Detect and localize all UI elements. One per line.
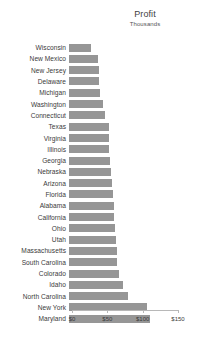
bar[interactable] [69,236,116,244]
category-label: Idaho [0,281,69,288]
category-label: Florida [0,191,69,198]
x-axis-tick-label: $150 [171,315,184,323]
category-label: Massachusetts [0,247,69,254]
category-label: Virginia [0,135,69,142]
bar-track [69,121,218,132]
bar[interactable] [69,213,114,221]
bar-track [69,268,218,279]
bar-track [69,279,218,290]
bar[interactable] [69,202,114,210]
x-axis-line [72,310,178,311]
x-axis-tick-label: $50 [102,315,112,323]
category-label: New Jersey [0,67,69,74]
category-label: Connecticut [0,112,69,119]
category-label: Arizona [0,180,69,187]
table-row: Utah [0,234,218,245]
bar[interactable] [69,66,99,74]
bar-track [69,87,218,98]
chart-title-block: Profit Thousands [72,9,218,28]
bar[interactable] [69,77,99,85]
bar[interactable] [69,89,100,97]
bar-track [69,178,218,189]
table-row: Colorado [0,268,218,279]
bar[interactable] [69,281,123,289]
bar-track [69,42,218,53]
bar[interactable] [69,179,112,187]
table-row: Michigan [0,87,218,98]
category-label: Georgia [0,157,69,164]
table-row: Illinois [0,144,218,155]
table-row: Massachusetts [0,245,218,256]
bar[interactable] [69,292,128,300]
bar[interactable] [69,224,115,232]
bar[interactable] [69,134,109,142]
bar-track [69,291,218,302]
x-axis-tick-mark [143,310,144,313]
x-axis-tick-mark [107,310,108,313]
table-row: California [0,211,218,222]
bar[interactable] [69,190,113,198]
category-label: Ohio [0,225,69,232]
category-label: Wisconsin [0,44,69,51]
bar[interactable] [69,55,98,63]
bar-track [69,76,218,87]
category-label: California [0,214,69,221]
table-row: Virginia [0,132,218,143]
bar-track [69,211,218,222]
x-axis-tick-mark [72,310,73,313]
table-row: Florida [0,189,218,200]
bar-track [69,98,218,109]
x-axis-tick-label: $0 [69,315,76,323]
plot-area: WisconsinNew MexicoNew JerseyDelawareMic… [0,42,218,310]
table-row: Delaware [0,76,218,87]
category-label: New York [0,304,69,311]
table-row: Arizona [0,178,218,189]
bar-track [69,110,218,121]
bar[interactable] [69,44,91,52]
bar[interactable] [69,123,109,131]
table-row: New York [0,302,218,313]
bar[interactable] [69,270,119,278]
bar[interactable] [69,258,117,266]
bar-track [69,166,218,177]
bar-track [69,155,218,166]
table-row: Nebraska [0,166,218,177]
bar-track [69,53,218,64]
bar[interactable] [69,168,111,176]
profit-bar-chart: Profit Thousands WisconsinNew MexicoNew … [0,0,218,339]
category-label: Illinois [0,146,69,153]
table-row: North Carolina [0,291,218,302]
category-label: Nebraska [0,168,69,175]
table-row: Ohio [0,223,218,234]
table-row: South Carolina [0,257,218,268]
table-row: Connecticut [0,110,218,121]
bar[interactable] [69,247,117,255]
chart-subtitle: Thousands [72,20,218,28]
bar[interactable] [69,100,103,108]
table-row: New Mexico [0,53,218,64]
category-label: Texas [0,123,69,130]
bar-track [69,223,218,234]
category-label: Delaware [0,78,69,85]
table-row: New Jersey [0,65,218,76]
bar-track [69,65,218,76]
category-label: Washington [0,101,69,108]
bar-track [69,189,218,200]
category-label: Alabama [0,202,69,209]
bar-track [69,245,218,256]
table-row: Alabama [0,200,218,211]
category-label: North Carolina [0,293,69,300]
bar[interactable] [69,111,105,119]
table-row: Texas [0,121,218,132]
category-label: Maryland [0,315,69,322]
category-label: Michigan [0,89,69,96]
bar[interactable] [69,145,109,153]
category-label: Colorado [0,270,69,277]
bar-track [69,144,218,155]
bar-track [69,132,218,143]
table-row: Washington [0,98,218,109]
bar[interactable] [69,157,110,165]
bar-track [69,257,218,268]
table-row: Georgia [0,155,218,166]
page-title: Profit [72,9,218,20]
